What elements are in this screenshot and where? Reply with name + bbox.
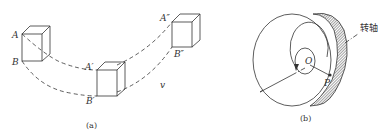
label-a: A [11, 30, 19, 40]
label-b-double-prime: B″ [173, 49, 185, 59]
label-a-prime: A′ [84, 62, 94, 72]
label-velocity: v [160, 80, 165, 90]
figure-canvas: A B A′ B′ A″ B″ v (a) O P 转轴 (b) [0, 0, 392, 138]
cube-1 [22, 26, 50, 61]
point-p-dot [328, 73, 331, 76]
cube-3 [172, 14, 200, 47]
axis-line-outer [345, 34, 358, 43]
caption-a: (a) [86, 121, 97, 130]
label-axis: 转轴 [360, 22, 378, 33]
diagram-svg: A B A′ B′ A″ B″ v (a) O P 转轴 (b) [0, 0, 392, 138]
label-p: P [323, 78, 331, 88]
label-a-double-prime: A″ [159, 13, 170, 23]
label-o: O [305, 56, 313, 66]
label-b: B [11, 57, 19, 67]
caption-b: (b) [300, 114, 311, 123]
label-b-prime: B′ [85, 96, 95, 106]
